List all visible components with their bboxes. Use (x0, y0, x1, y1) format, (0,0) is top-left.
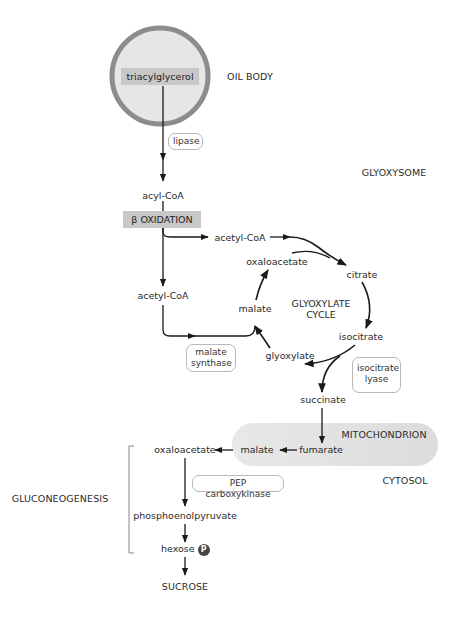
oxaloacetate-cycle-label: oxaloacetate (246, 257, 307, 267)
malate-synthase-enzyme: malate synthase (186, 344, 236, 372)
phosphoenolpyruvate-label: phosphoenolpyruvate (133, 511, 237, 521)
malate-cycle-label: malate (238, 304, 271, 314)
phosphate-badge-icon: P (198, 544, 210, 556)
lipase-label: lipase (173, 136, 199, 146)
hexose-label: hexose (161, 543, 195, 554)
oil-body-label: OIL BODY (227, 72, 273, 82)
glyoxylate-label: glyoxylate (265, 351, 314, 361)
malate-synthase-line2: synthase (191, 358, 231, 369)
sucrose-label: SUCROSE (162, 582, 208, 592)
glyoxylate-cycle-line1: GLYOXYLATE (286, 298, 356, 309)
citrate-label: citrate (347, 270, 378, 280)
hexose-phosphate: hexoseP (161, 543, 210, 556)
isocitrate-lyase-enzyme: isocitrate lyase (352, 357, 401, 393)
pep-carboxykinase-label: PEP carboxykinase (206, 478, 271, 499)
glyoxylate-cycle-title: GLYOXYLATE CYCLE (286, 298, 356, 321)
mitochondrion-label: MITOCHONDRION (341, 430, 426, 440)
gluconeogenesis-bracket (129, 446, 134, 553)
triacylglycerol-label: triacylglycerol (126, 71, 193, 82)
lipase-enzyme: lipase (168, 133, 203, 150)
pep-carboxykinase-enzyme: PEP carboxykinase (192, 475, 284, 492)
malate-cytosol-label: malate (240, 445, 273, 455)
isocitrate-label: isocitrate (339, 332, 383, 342)
glyoxylate-cycle-line2: CYCLE (286, 309, 356, 320)
acetyl-coa-1-label: acetyl-CoA (214, 233, 265, 243)
oxaloacetate-cytosol-label: oxaloacetate (154, 445, 215, 455)
succinate-label: succinate (300, 395, 345, 405)
diagram-graphics (0, 0, 456, 622)
glyoxysome-label: GLYOXYSOME (362, 168, 427, 178)
acetyl-coa-2-label: acetyl-CoA (137, 291, 188, 301)
fumarate-label: fumarate (299, 445, 343, 455)
cytosol-label: CYTOSOL (382, 476, 427, 486)
malate-synthase-line1: malate (191, 347, 231, 358)
triacylglycerol-box: triacylglycerol (121, 68, 199, 85)
beta-oxidation-label: β OXIDATION (131, 214, 192, 225)
isocitrate-lyase-line2: lyase (357, 374, 396, 385)
pathway-diagram: triacylglycerol OIL BODY lipase GLYOXYSO… (0, 0, 456, 622)
beta-oxidation-box: β OXIDATION (123, 211, 201, 228)
gluconeogenesis-label: GLUCONEOGENESIS (12, 494, 109, 504)
acyl-coa-label: acyl-CoA (142, 191, 184, 201)
isocitrate-lyase-line1: isocitrate (357, 363, 396, 374)
